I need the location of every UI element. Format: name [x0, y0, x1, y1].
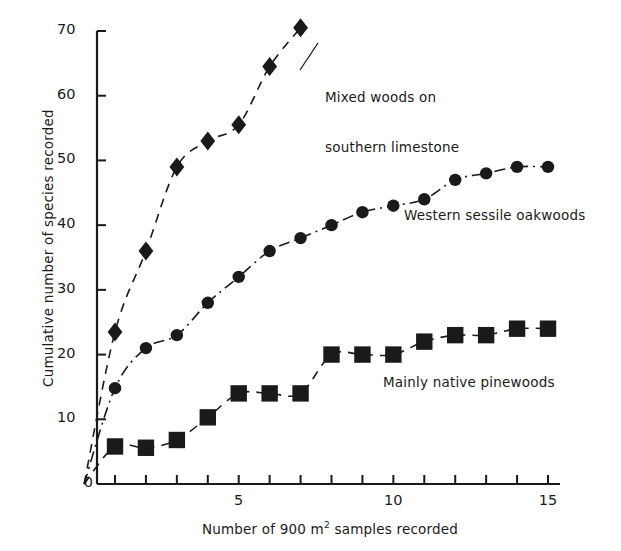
y-tick-label: 0: [75, 474, 93, 490]
data-point: [200, 409, 216, 425]
data-point: [107, 438, 123, 454]
data-point: [540, 320, 556, 336]
y-tick-label: 10: [57, 409, 75, 425]
x-tick-label: 15: [533, 492, 563, 508]
y-tick-label: 30: [57, 280, 75, 296]
data-point: [108, 322, 123, 341]
data-point: [418, 193, 430, 205]
oakwoods-label: Western sessile oakwoods: [404, 207, 585, 224]
y-tick-label: 20: [57, 345, 75, 361]
data-point: [356, 206, 368, 218]
data-point: [323, 346, 339, 362]
plot-area: [0, 0, 621, 551]
x-axis-title: Number of 900 m2 samples recorded: [100, 519, 560, 537]
data-point: [169, 432, 185, 448]
mixed-woods-label-line2: southern limestone: [325, 139, 459, 156]
figure: 010203040506070 51015 Cumulative number …: [0, 0, 621, 551]
data-point: [202, 297, 214, 309]
y-tick-label: 40: [57, 215, 75, 231]
data-point: [447, 327, 463, 343]
data-point: [387, 200, 399, 212]
y-tick-label: 70: [57, 21, 75, 37]
y-tick-label: 60: [57, 86, 75, 102]
y-axis-title: Cumulative number of species recorded: [40, 108, 56, 388]
data-point: [478, 327, 494, 343]
mixed-woods-label: Mixed woods on southern limestone: [325, 55, 459, 190]
y-tick-label: 50: [57, 150, 75, 166]
data-point: [200, 132, 215, 151]
x-tick-label: 10: [378, 492, 408, 508]
data-point: [385, 346, 401, 362]
data-point: [542, 161, 554, 173]
data-point: [325, 219, 337, 231]
x-tick-label: 5: [224, 492, 254, 508]
data-point: [509, 320, 525, 336]
data-point: [294, 232, 306, 244]
data-point: [139, 242, 154, 261]
pinewoods-label: Mainly native pinewoods: [383, 374, 555, 391]
data-point: [233, 271, 245, 283]
data-point: [511, 161, 523, 173]
series-curves: [84, 28, 548, 484]
leader-line: [300, 43, 318, 70]
mixed-woods-label-line1: Mixed woods on: [325, 89, 459, 106]
data-point: [480, 167, 492, 179]
data-point: [261, 385, 277, 401]
data-point: [171, 329, 183, 341]
data-point: [140, 342, 152, 354]
data-point: [354, 346, 370, 362]
data-point: [109, 382, 121, 394]
series-line-2: [84, 328, 548, 484]
axis-ticks: [97, 31, 548, 484]
data-point: [231, 385, 247, 401]
data-point: [263, 245, 275, 257]
data-point: [416, 333, 432, 349]
x-axis-title-pre: Number of 900 m: [202, 521, 324, 537]
data-point: [138, 440, 154, 456]
x-axis-title-post: samples recorded: [330, 521, 458, 537]
data-point: [292, 385, 308, 401]
